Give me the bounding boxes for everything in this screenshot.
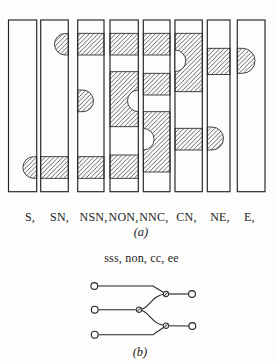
network-edge [98,286,166,294]
bar-label: NON, [109,210,139,224]
panel-a-bars: S,SN,NSN,NON,NNC,CN,NE,E, [9,20,266,224]
bar-label: NSN, [80,210,108,224]
hatch-band [78,33,104,55]
bar-label: S, [25,210,35,224]
bar-E: E, [237,20,265,224]
terminal-node [91,306,98,313]
figure-canvas: S,SN,NSN,NON,NNC,CN,NE,E, (a) sss, non, … [0,0,275,363]
figure-page: S,SN,NSN,NON,NNC,CN,NE,E, (a) sss, non, … [0,0,275,363]
bar-NON: NON, [109,20,139,224]
junction-node [136,307,142,313]
panel-b-caption: (b) [133,345,148,359]
panel-a-caption: (a) [134,225,149,239]
hatch-band [207,48,230,74]
hatch-band [110,155,138,178]
bar-label: NNC, [139,210,168,224]
terminal-node [91,283,98,290]
bar-label: E, [244,210,255,224]
hatch-band [41,157,69,179]
network-edge [98,326,166,335]
junction-node [163,323,169,329]
panel-b-subtitle: sss, non, cc, ee [104,251,179,265]
terminal-node [91,331,98,338]
network-edge [139,294,166,310]
bar-NE: NE, [207,20,230,224]
junction-node [163,291,169,297]
bar-S: S, [9,20,37,224]
panel-b-network [91,283,196,339]
bar-label: SN, [50,210,69,224]
hatch-band [110,33,138,55]
terminal-node [189,291,196,298]
terminal-node [189,323,196,330]
bar-label: CN, [176,210,196,224]
hatch-band [175,128,202,150]
bar-label: NE, [210,210,230,224]
hatch-band [143,73,170,95]
hatch-band [143,33,170,55]
bar-SN: SN, [41,20,69,224]
hatch-band [78,157,104,179]
bar-NSN: NSN, [78,20,108,224]
bar-CN: CN, [175,20,202,224]
network-edge [139,310,166,326]
bar-NNC: NNC, [139,20,170,224]
